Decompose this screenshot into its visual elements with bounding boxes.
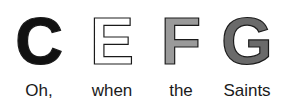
word-saints: Saints	[212, 81, 282, 101]
item-c: C Oh,	[4, 0, 74, 101]
letter-c: C	[4, 8, 74, 74]
letter-e: E	[77, 8, 147, 74]
word-when: when	[77, 81, 147, 101]
letter-f: F	[146, 8, 216, 74]
word-the: the	[146, 81, 216, 101]
word-oh: Oh,	[4, 81, 74, 101]
item-g: G Saints	[212, 0, 282, 101]
item-f: F the	[146, 0, 216, 101]
letter-g: G	[212, 8, 282, 74]
item-e: E when	[77, 0, 147, 101]
